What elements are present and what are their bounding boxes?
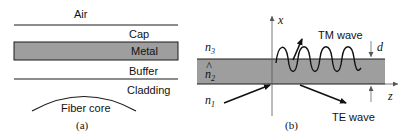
figure: Air Cap Metal Buffer Cladding Fiber core… [0, 0, 408, 137]
air-label: Air [74, 8, 88, 20]
n3-label: n3 [205, 40, 215, 56]
fiber-core-label: Fiber core [61, 102, 111, 114]
te-wave-arrow [300, 85, 346, 103]
caption-a: (a) [76, 119, 89, 132]
x-axis-label: x [277, 13, 284, 27]
tm-wave-label: TM wave [318, 29, 363, 41]
metal-label: Metal [131, 45, 158, 57]
cap-label: Cap [129, 28, 149, 40]
buffer-label: Buffer [129, 65, 158, 77]
te-wave-label: TE wave [332, 111, 375, 123]
cladding-label: Cladding [127, 84, 170, 96]
panel-a: Air Cap Metal Buffer Cladding Fiber core… [14, 8, 178, 132]
thickness-label: d [377, 40, 384, 54]
metal-film [197, 59, 385, 84]
incident-ray-arrow [224, 85, 270, 103]
n1-label: n1 [205, 93, 215, 109]
z-axis-label: z [387, 89, 393, 103]
caption-b: (b) [285, 119, 298, 132]
panel-b: x z n3 n2 ^ n1 TE wave TM wave d (b) [197, 13, 398, 132]
